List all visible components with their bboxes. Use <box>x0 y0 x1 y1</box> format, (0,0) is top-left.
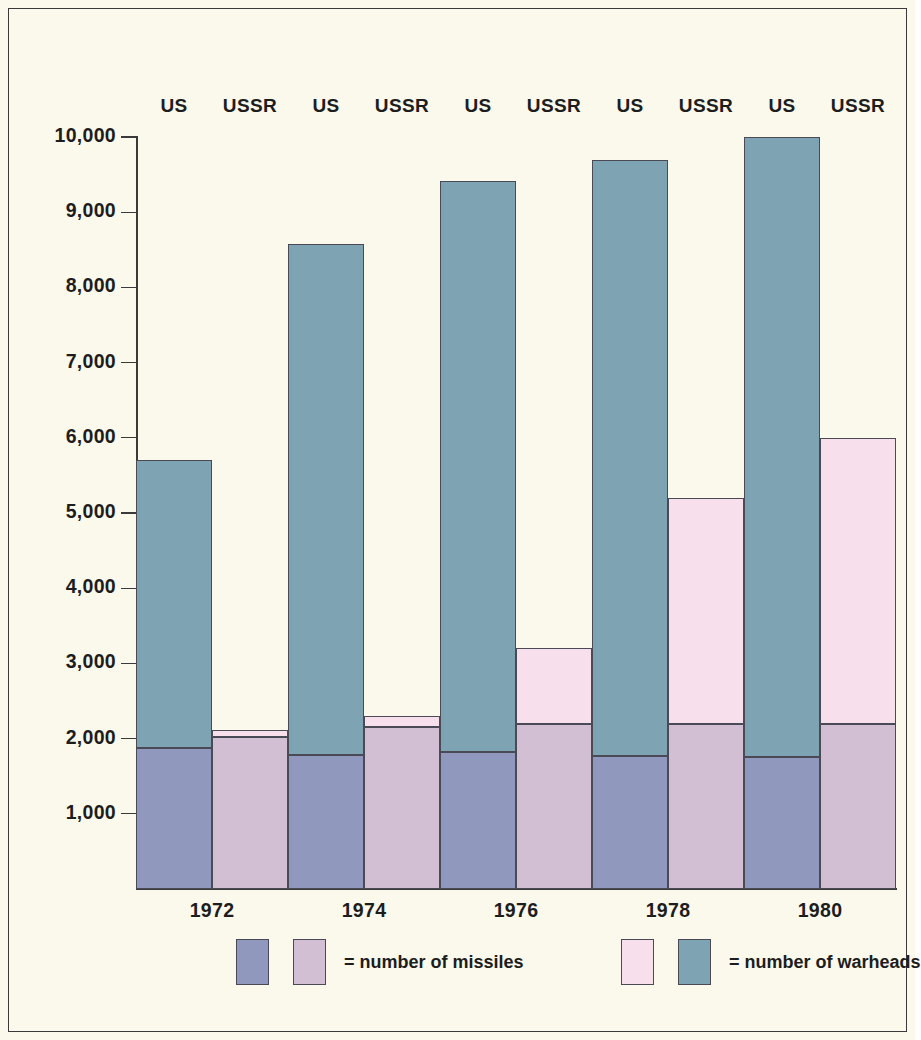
bar-segment-missiles <box>744 757 820 889</box>
bar-column <box>668 137 744 889</box>
bar-segment-warheads <box>744 137 820 757</box>
column-header-label: US <box>744 95 820 117</box>
legend-label-missiles: = number of missiles <box>344 952 524 973</box>
y-tick-label: 2,000 <box>11 726 116 749</box>
bar-segment-missiles <box>288 755 364 889</box>
bar-column <box>364 137 440 889</box>
stacked-bar <box>744 137 820 889</box>
y-tick-mark <box>121 437 136 438</box>
legend-swatch-missiles-us <box>236 939 269 985</box>
year-label: 1976 <box>440 899 592 922</box>
legend-swatch-warheads-ussr <box>621 939 654 985</box>
column-header-label: US <box>592 95 668 117</box>
column-header-label: USSR <box>516 95 592 117</box>
y-tick-label: 8,000 <box>11 274 116 297</box>
stacked-bar <box>668 137 744 889</box>
y-tick-label: 7,000 <box>11 350 116 373</box>
y-tick-mark <box>121 212 136 213</box>
y-tick-mark <box>121 287 136 288</box>
stacked-bar <box>440 137 516 889</box>
bar-segment-missiles <box>364 727 440 889</box>
y-tick-label: 9,000 <box>11 199 116 222</box>
year-label: 1972 <box>136 899 288 922</box>
stacked-bar <box>820 137 896 889</box>
stacked-bar <box>592 137 668 889</box>
y-tick-label: 1,000 <box>11 801 116 824</box>
bar-column <box>212 137 288 889</box>
stacked-bar <box>364 137 440 889</box>
bar-segment-warheads <box>364 716 440 727</box>
y-tick-mark <box>121 738 136 739</box>
year-label: 1978 <box>592 899 744 922</box>
legend-swatch-warheads-us <box>678 939 711 985</box>
bar-segment-warheads <box>136 460 212 748</box>
stacked-bar <box>288 137 364 889</box>
y-tick-mark <box>121 663 136 664</box>
bar-column <box>136 137 212 889</box>
bar-segment-warheads <box>288 244 364 755</box>
bar-segment-missiles <box>516 724 592 889</box>
bar-segment-missiles <box>212 737 288 889</box>
stacked-bar <box>212 137 288 889</box>
y-tick-label: 5,000 <box>11 500 116 523</box>
stacked-bar <box>136 137 212 889</box>
column-header-label: US <box>288 95 364 117</box>
bar-column <box>744 137 820 889</box>
legend-entry-warheads: = number of warheads <box>621 939 921 985</box>
legend-label-warheads: = number of warheads <box>729 952 921 973</box>
y-tick-mark <box>121 136 136 137</box>
bar-segment-missiles <box>136 748 212 889</box>
year-label: 1980 <box>744 899 896 922</box>
bar-segment-missiles <box>820 724 896 889</box>
column-header-label: US <box>136 95 212 117</box>
y-tick-mark <box>121 813 136 814</box>
y-tick-label: 4,000 <box>11 575 116 598</box>
y-tick-mark <box>121 588 136 589</box>
column-header-label: USSR <box>212 95 288 117</box>
bar-segment-missiles <box>592 756 668 889</box>
column-header-label: USSR <box>820 95 896 117</box>
y-tick-label: 6,000 <box>11 425 116 448</box>
chart-legend: = number of missiles = number of warhead… <box>136 939 896 999</box>
bar-column <box>288 137 364 889</box>
bar-segment-warheads <box>592 160 668 756</box>
bar-segment-warheads <box>212 730 288 738</box>
year-label: 1974 <box>288 899 440 922</box>
bar-column <box>592 137 668 889</box>
bar-column <box>440 137 516 889</box>
legend-swatch-missiles-ussr <box>293 939 326 985</box>
column-header-label: US <box>440 95 516 117</box>
stacked-bar <box>516 137 592 889</box>
column-header-label: USSR <box>668 95 744 117</box>
chart-frame: 10,0009,0008,0007,0006,0005,0004,0003,00… <box>8 8 907 1032</box>
y-tick-label: 10,000 <box>11 124 116 147</box>
bar-segment-warheads <box>440 181 516 753</box>
bar-segment-warheads <box>668 498 744 724</box>
legend-entry-missiles: = number of missiles <box>236 939 524 985</box>
bar-segment-missiles <box>440 752 516 889</box>
bar-column <box>516 137 592 889</box>
y-tick-label: 3,000 <box>11 650 116 673</box>
y-tick-mark <box>121 362 136 363</box>
bar-segment-missiles <box>668 724 744 889</box>
bar-segment-warheads <box>820 438 896 724</box>
y-tick-mark <box>121 512 136 513</box>
plot-area <box>136 137 896 889</box>
bar-segment-warheads <box>516 648 592 723</box>
column-header-label: USSR <box>364 95 440 117</box>
bar-column <box>820 137 896 889</box>
